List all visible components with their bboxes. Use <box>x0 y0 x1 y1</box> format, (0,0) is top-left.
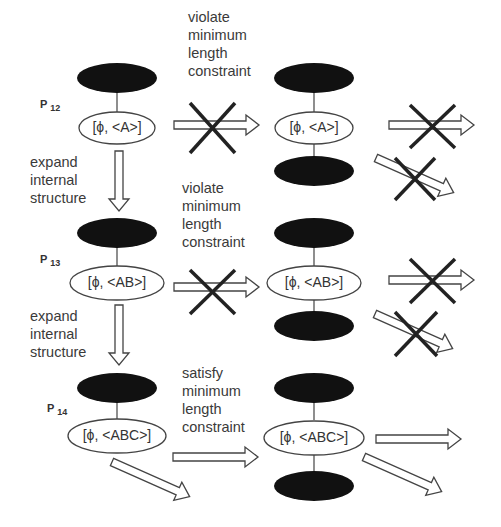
pattern-label: P 14 <box>47 402 67 417</box>
expand-label: expand internal structure <box>30 307 86 361</box>
pattern-label-letter: P <box>40 98 47 110</box>
node-text: [ϕ, <ABC>] <box>68 427 166 443</box>
node-text: [ϕ, <A>] <box>79 119 155 135</box>
node-text: [ϕ, <ABC>] <box>264 429 364 445</box>
pattern-label-sub: 13 <box>50 258 60 268</box>
transition-arrow <box>173 447 258 467</box>
cross-icon <box>190 270 235 314</box>
expand-arrow <box>109 305 129 365</box>
transition-label: violate minimum length constraint <box>188 8 251 80</box>
transition-label: satisfy minimum length constraint <box>182 364 245 436</box>
node-text: [ϕ, <AB>] <box>267 274 361 290</box>
pattern-label-sub: 14 <box>57 407 67 417</box>
filled-node <box>274 156 354 186</box>
pattern-label: P 12 <box>40 98 60 113</box>
pattern-label-letter: P <box>47 402 54 414</box>
filled-node <box>77 63 157 93</box>
transition-label: violate minimum length constraint <box>182 179 245 251</box>
filled-node <box>77 373 157 403</box>
pattern-label: P 13 <box>40 253 60 268</box>
outgoing-arrow <box>376 429 461 449</box>
expand-arrow <box>109 151 129 211</box>
row-p13 <box>70 218 474 365</box>
filled-node <box>274 311 354 341</box>
filled-node <box>274 63 354 93</box>
outgoing-arrow <box>372 149 458 202</box>
filled-node <box>274 373 354 403</box>
expand-label: expand internal structure <box>30 153 86 207</box>
pattern-label-letter: P <box>40 253 47 265</box>
node-text: [ϕ, <AB>] <box>70 274 164 290</box>
filled-node <box>77 218 157 248</box>
outgoing-arrow <box>360 448 446 501</box>
filled-node <box>274 218 354 248</box>
row-p12 <box>77 63 474 211</box>
filled-node <box>274 471 354 501</box>
node-text: [ϕ, <A>] <box>275 119 353 135</box>
pattern-label-sub: 12 <box>50 103 60 113</box>
